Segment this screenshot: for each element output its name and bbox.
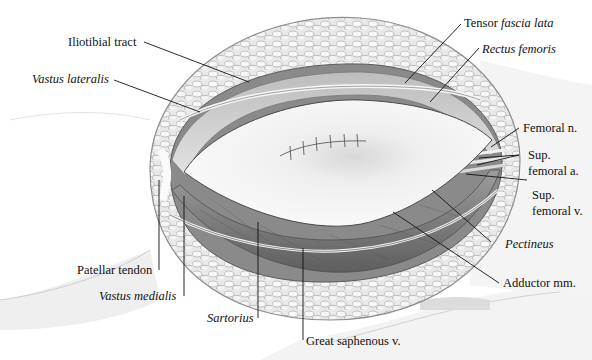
label-tensor-fascia-lata: Tensor fascia lata — [464, 16, 553, 30]
label-sartorius: Sartorius — [207, 311, 254, 325]
label-femoral-n: Femoral n. — [523, 121, 577, 135]
label-sup-femoral-a-2: femoral a. — [528, 164, 579, 178]
label-pectineus: Pectineus — [505, 237, 554, 251]
label-patellar-tendon: Patellar tendon — [77, 263, 152, 277]
label-sup-femoral-v-2: femoral v. — [532, 204, 583, 218]
label-adductor-mm: Adductor mm. — [503, 276, 576, 290]
label-vastus-lateralis: Vastus lateralis — [32, 72, 109, 86]
label-vastus-medialis: Vastus medialis — [99, 289, 176, 303]
label-iliotibial-tract: Iliotibial tract — [68, 35, 136, 49]
label-sup-femoral-a-1: Sup. — [528, 148, 551, 162]
label-tensor-italic: fascia lata — [501, 16, 553, 30]
label-sup-femoral-v-1: Sup. — [532, 188, 555, 202]
label-rectus-femoris: Rectus femoris — [482, 42, 556, 56]
label-tensor-prefix: Tensor — [464, 16, 501, 30]
label-great-saphenous-v: Great saphenous v. — [306, 334, 401, 348]
